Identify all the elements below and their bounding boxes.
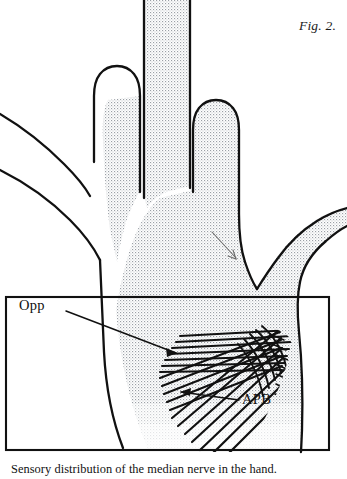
hand-illustration: [0, 0, 347, 479]
annotation-label-opp: Opp: [19, 297, 45, 314]
annotation-label-apb: APB: [242, 391, 271, 408]
little-finger-outline-lower: [0, 170, 100, 260]
sensory-distribution-shading: [0, 0, 347, 468]
palm-ulnar-border-outline: [100, 260, 123, 448]
figure-container: Fig. 2. Opp APB Sensory distribution of …: [0, 0, 347, 479]
figure-number: Fig. 2.: [299, 18, 336, 34]
figure-caption: Sensory distribution of the median nerve…: [11, 462, 337, 478]
little-finger-outline: [0, 114, 90, 196]
